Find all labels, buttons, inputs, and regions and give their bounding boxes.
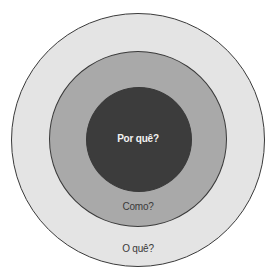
label-how: Como? [88, 201, 188, 212]
label-what: O quê? [88, 243, 188, 254]
label-why: Por quê? [88, 133, 188, 144]
